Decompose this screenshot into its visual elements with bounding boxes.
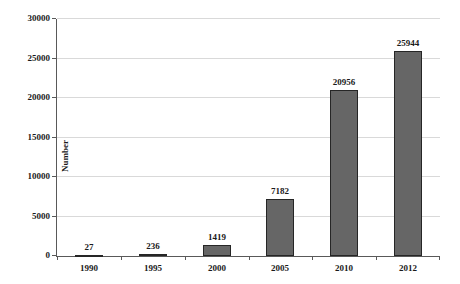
gridline xyxy=(57,58,440,59)
x-tick-label: 2000 xyxy=(185,264,249,273)
y-axis-tick xyxy=(52,58,56,59)
x-axis-tick xyxy=(121,257,122,260)
y-axis-tick xyxy=(52,18,56,19)
x-tick-label: 2005 xyxy=(248,264,312,273)
bar xyxy=(139,254,167,256)
x-tick-label: 2010 xyxy=(312,264,376,273)
x-axis-tick xyxy=(439,257,440,260)
bar-value-label: 7182 xyxy=(248,187,312,196)
y-axis-tick xyxy=(52,216,56,217)
x-tick-label: 1995 xyxy=(121,264,185,273)
bar-value-label: 1419 xyxy=(185,233,249,242)
y-tick-label: 5000 xyxy=(10,212,50,221)
y-axis-tick xyxy=(52,97,56,98)
y-tick-label: 20000 xyxy=(10,93,50,102)
y-tick-label: 25000 xyxy=(10,54,50,63)
bar-value-label: 27 xyxy=(57,243,121,252)
bar xyxy=(330,90,358,256)
gridline xyxy=(57,176,440,177)
bar xyxy=(266,199,294,256)
x-tick-label: 1990 xyxy=(57,264,121,273)
plot-area: Number 050001000015000200002500030000271… xyxy=(56,19,440,257)
gridline xyxy=(57,216,440,217)
bar xyxy=(75,255,103,257)
y-tick-label: 30000 xyxy=(10,14,50,23)
y-axis-tick xyxy=(52,255,56,256)
y-tick-label: 0 xyxy=(10,251,50,260)
bar-value-label: 25944 xyxy=(376,39,440,48)
y-axis-tick xyxy=(52,137,56,138)
y-tick-label: 10000 xyxy=(10,172,50,181)
bar-chart-figure: Number 050001000015000200002500030000271… xyxy=(0,0,460,284)
bar xyxy=(394,51,422,256)
gridline xyxy=(57,137,440,138)
x-axis-tick xyxy=(57,257,58,260)
x-axis-tick xyxy=(312,257,313,260)
y-axis-title: Number xyxy=(60,91,70,221)
bar-value-label: 20956 xyxy=(312,78,376,87)
bar-value-label: 236 xyxy=(121,242,185,251)
gridline xyxy=(57,97,440,98)
y-axis-tick xyxy=(52,176,56,177)
y-tick-label: 15000 xyxy=(10,133,50,142)
x-tick-label: 2012 xyxy=(376,264,440,273)
x-axis-tick xyxy=(185,257,186,260)
bar xyxy=(203,245,231,256)
x-axis-tick xyxy=(376,257,377,260)
gridline xyxy=(57,18,440,19)
x-axis-tick xyxy=(249,257,250,260)
